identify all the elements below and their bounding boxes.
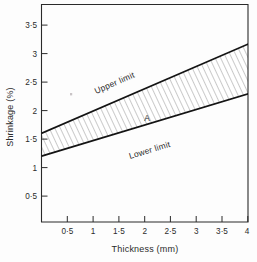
x-axis-title: Thickness (mm) <box>112 244 179 254</box>
y-axis-title: Shrinkage (%) <box>5 87 15 147</box>
y-tick-label: 1·5 <box>25 135 37 144</box>
scan-speck <box>70 93 72 95</box>
y-tick-label: 2 <box>32 107 37 116</box>
y-tick-label: 2·5 <box>25 78 37 87</box>
x-tick-label: 0·5 <box>61 227 73 236</box>
y-tick-label: 3 <box>32 50 37 59</box>
x-tick-label: 4 <box>245 227 250 236</box>
shrinkage-vs-thickness-chart: 0·5 1 1·5 2 2·5 3 3·5 0·5 1 1·5 2 2·5 3 … <box>0 0 257 262</box>
y-tick-label: 1 <box>32 164 37 173</box>
figure-background <box>0 0 257 262</box>
x-tick-label: 3 <box>194 227 199 236</box>
x-tick-label: 2 <box>142 227 147 236</box>
y-tick-label: 0·5 <box>25 192 37 201</box>
y-tick-label: 3·5 <box>25 21 37 30</box>
x-tick-label: 1·5 <box>113 227 125 236</box>
chart-figure: 0·5 1 1·5 2 2·5 3 3·5 0·5 1 1·5 2 2·5 3 … <box>0 0 257 262</box>
x-tick-label: 3·5 <box>216 227 228 236</box>
region-a-label: A <box>144 113 150 123</box>
x-tick-label: 2·5 <box>164 227 176 236</box>
x-tick-label: 1 <box>91 227 96 236</box>
